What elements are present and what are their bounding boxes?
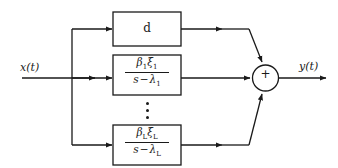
ellipsis-dot <box>146 109 149 112</box>
ellipsis-dot <box>146 102 149 105</box>
transfer-function-L: βLξL s − λL <box>113 127 181 159</box>
diagonal-bottom-to-sum <box>249 94 262 145</box>
vertical-ellipsis-icon <box>140 98 154 119</box>
transfer-function-1: β1ξ1 s − λ1 <box>113 57 181 89</box>
input-signal-label: x(t) <box>20 62 39 73</box>
ellipsis-dot <box>146 116 149 119</box>
denominator-1: s − λ1 <box>113 73 181 88</box>
direct-gain-label: d <box>113 22 181 34</box>
output-signal-label: y(t) <box>299 61 318 72</box>
diagonal-top-to-sum <box>249 29 262 62</box>
denominator-L: s − λL <box>113 143 181 158</box>
block-diagram-figure: x(t) y(t) d β1ξ1 s − λ1 βLξL s − λL + <box>0 0 338 168</box>
numerator-L: βLξL <box>113 127 181 142</box>
numerator-1: β1ξ1 <box>113 57 181 72</box>
summing-junction-plus-symbol: + <box>256 67 275 81</box>
